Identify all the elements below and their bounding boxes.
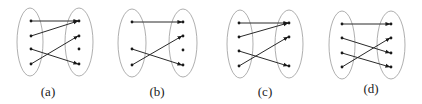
panel-label: (d) <box>363 81 378 96</box>
mapping-arrow <box>132 49 182 65</box>
mapping-panel-b: (b) <box>118 9 197 99</box>
codomain-element-dot <box>288 36 291 39</box>
panel-label: (b) <box>149 84 164 99</box>
mapping-arrow <box>239 51 288 66</box>
mapping-arrow <box>31 49 78 64</box>
panel-label: (c) <box>258 84 272 99</box>
domain-element-dot <box>341 66 344 69</box>
domain-element-dot <box>30 48 33 51</box>
mapping-diagrams-figure: (a)(b)(c)(d) <box>0 0 422 104</box>
mapping-arrow <box>342 53 390 67</box>
domain-set-ellipse <box>227 10 253 78</box>
codomain-element-dot <box>390 52 393 55</box>
mapping-panel-d: (d) <box>329 11 405 96</box>
domain-element-dot <box>341 23 344 26</box>
domain-element-dot <box>131 21 134 24</box>
domain-element-dot <box>131 48 134 51</box>
domain-set-ellipse <box>329 11 355 79</box>
domain-element-dot <box>131 64 134 67</box>
mapping-arrow <box>342 38 390 67</box>
codomain-set-ellipse <box>169 9 197 77</box>
domain-set-ellipse <box>17 8 43 76</box>
codomain-set-ellipse <box>275 10 303 78</box>
codomain-element-dot <box>78 35 81 38</box>
mapping-arrow <box>239 23 288 37</box>
domain-element-dot <box>238 65 241 68</box>
domain-element-dot <box>341 37 344 40</box>
codomain-element-dot <box>78 20 81 23</box>
mapping-arrow <box>342 38 390 53</box>
codomain-element-dot <box>390 23 393 26</box>
domain-element-dot <box>238 50 241 53</box>
domain-element-dot <box>30 35 33 38</box>
domain-element-dot <box>30 20 33 23</box>
mapping-arrow <box>239 37 288 66</box>
mapping-arrow <box>31 21 78 36</box>
codomain-element-dot <box>390 66 393 69</box>
panel-label: (a) <box>41 84 55 99</box>
mapping-arrow <box>31 36 78 64</box>
domain-set-ellipse <box>118 9 146 77</box>
domain-element-dot <box>238 36 241 39</box>
codomain-element-dot <box>288 65 291 68</box>
codomain-element-dot <box>288 22 291 25</box>
mapping-panel-c: (c) <box>227 10 303 99</box>
domain-element-dot <box>238 22 241 25</box>
codomain-element-dot <box>182 21 185 24</box>
codomain-element-dot <box>182 35 185 38</box>
mapping-panel-a: (a) <box>17 8 93 99</box>
codomain-element-dot <box>182 49 185 52</box>
codomain-element-dot <box>78 48 81 51</box>
domain-element-dot <box>341 52 344 55</box>
codomain-set-ellipse <box>65 8 93 76</box>
codomain-element-dot <box>78 63 81 66</box>
domain-element-dot <box>30 63 33 66</box>
mapping-arrow <box>132 36 182 65</box>
codomain-element-dot <box>182 64 185 67</box>
codomain-set-ellipse <box>377 11 405 79</box>
codomain-element-dot <box>390 37 393 40</box>
